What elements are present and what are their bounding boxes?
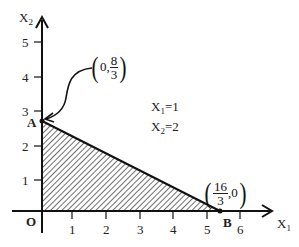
origin-label: O	[26, 215, 36, 228]
y-ticks	[34, 42, 42, 180]
annotation-x1: X1=1	[151, 100, 179, 113]
x-axis-label: X1	[277, 217, 291, 230]
y-tick-label: 2	[22, 140, 29, 153]
y-axis-label: X2	[19, 11, 33, 24]
x-tick-label: 6	[237, 223, 244, 236]
y-tick-label: 1	[22, 174, 29, 187]
x-tick-label: 2	[103, 223, 110, 236]
x-tick-label: 3	[137, 223, 144, 236]
feasible-region-plot	[0, 0, 299, 247]
x-tick-label: 5	[204, 223, 211, 236]
feasible-region	[42, 121, 220, 211]
point-b-dot	[218, 209, 223, 214]
annotation-x2: X2=2	[151, 120, 179, 133]
point-a-label: A	[27, 116, 36, 129]
y-tick-label: 4	[22, 71, 29, 84]
point-a-coordinates: ( 0, 83 )	[90, 52, 128, 82]
x-tick-label: 4	[170, 223, 177, 236]
x-ticks	[72, 211, 240, 219]
pointer-arrow-a	[46, 68, 92, 119]
x-tick-label: 1	[69, 223, 76, 236]
y-tick-label: 5	[22, 36, 29, 49]
point-b-coordinates: ( 163 ,0 )	[203, 178, 248, 208]
point-b-label: B	[223, 216, 232, 229]
